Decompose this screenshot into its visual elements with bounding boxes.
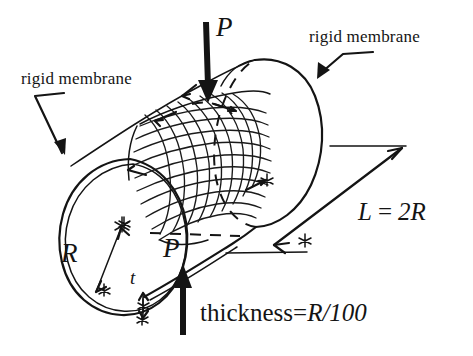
deformation-mesh [134,93,271,240]
leader-line-right [317,52,373,79]
label-load-p-bottom: P [163,235,180,262]
label-thickness-t: t [130,268,135,287]
thickness-note-value: R/100 [307,299,367,326]
figure-canvas: rigid membrane rigid membrane P P R t L=… [0,0,473,356]
load-arrow-top [198,22,218,103]
length-eq-sign: = [378,198,392,225]
label-length-equation: L=2R [358,199,426,224]
label-radius-r: R [61,240,78,267]
far-end-cap [221,59,322,227]
thickness-dimension [139,293,148,318]
label-rigid-membrane-left: rigid membrane [21,70,132,87]
leader-line-left [35,93,66,155]
label-load-p-top: P [216,14,233,41]
cylinder-lower-edge [144,227,256,300]
length-rhs: 2R [398,198,426,225]
thickness-note-prefix: thickness= [200,299,307,326]
load-arrow-bottom [174,264,192,335]
label-rigid-membrane-right: rigid membrane [309,28,420,45]
label-thickness-note: thickness=R/100 [200,300,367,325]
length-lhs: L [358,198,372,225]
